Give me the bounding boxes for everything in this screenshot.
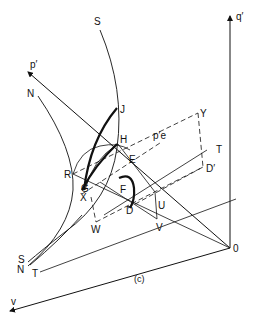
- label-n-bottom: N: [17, 264, 24, 275]
- dash-d-dprime: [128, 167, 203, 208]
- label-u: U: [158, 200, 165, 211]
- label-y: Y: [200, 108, 207, 119]
- s-curve: [28, 30, 119, 262]
- diagram-canvas: q′ p′ v 0 S N J H p′e Y T D′ E R G X F D…: [0, 0, 256, 319]
- label-s-top: S: [94, 16, 101, 27]
- label-pe: p′e: [153, 130, 166, 141]
- v-axis: [10, 248, 230, 311]
- stress-path-diagram: q′ p′ v 0 S N J H p′e Y T D′ E R G X F D…: [0, 0, 256, 319]
- u-v-line: [155, 192, 157, 219]
- label-j: J: [120, 104, 125, 115]
- n-curve: [28, 96, 73, 266]
- dash-x-w: [91, 197, 96, 222]
- label-origin: 0: [233, 243, 239, 254]
- label-t-bottom: T: [32, 268, 38, 279]
- label-w: W: [91, 224, 101, 235]
- label-e: E: [129, 154, 136, 165]
- label-f: F: [120, 184, 126, 195]
- label-d-prime: D′: [206, 163, 215, 174]
- label-v-point: V: [156, 222, 163, 233]
- label-n-top: N: [27, 88, 34, 99]
- label-q-prime: q′: [236, 11, 244, 22]
- t-line-right: [104, 150, 207, 215]
- label-h: H: [120, 134, 127, 145]
- label-d: D: [126, 205, 133, 216]
- label-p-prime: p′: [30, 59, 38, 70]
- dash-y-dprime: [198, 113, 203, 167]
- figure-caption: (c): [134, 274, 145, 284]
- label-v: v: [11, 296, 16, 307]
- label-x: X: [80, 192, 87, 203]
- label-t-right: T: [216, 144, 222, 155]
- label-r: R: [64, 169, 71, 180]
